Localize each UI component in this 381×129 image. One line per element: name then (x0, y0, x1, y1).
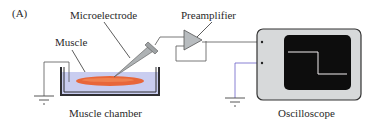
microelectrode-label: Microelectrode (70, 9, 137, 21)
ground-symbol-right (225, 98, 245, 106)
oscilloscope (257, 29, 361, 100)
preamplifier-icon (184, 30, 202, 50)
muscle-highlight (82, 78, 134, 82)
muscle-chamber (61, 67, 159, 95)
ground-symbol-left (34, 96, 54, 104)
microelectrode-leader-line (104, 22, 130, 58)
microelectrode (114, 42, 158, 77)
electrode-to-preamp-wire (155, 37, 184, 45)
panel-label: (A) (12, 7, 28, 20)
input-terminal-1 (261, 41, 263, 43)
input-terminal-2 (261, 62, 263, 64)
preamplifier-label: Preamplifier (181, 9, 236, 21)
recording-setup-diagram: (A) Microelectrode Preamplifier Muscle M… (0, 0, 381, 129)
preamplifier-leader-line (197, 22, 212, 37)
muscle-label: Muscle (55, 36, 88, 48)
oscilloscope-label: Oscilloscope (278, 107, 335, 119)
muscle-chamber-label: Muscle chamber (69, 107, 142, 119)
